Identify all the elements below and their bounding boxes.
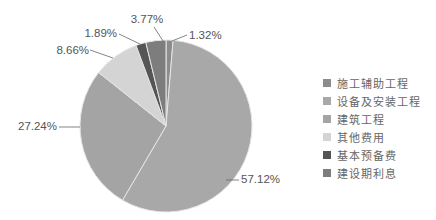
legend-label: 施工辅助工程 [337, 75, 409, 91]
leader-line [119, 34, 140, 44]
legend-item-equipment-install: 设备及安装工程 [323, 92, 421, 110]
legend-swatch-icon [323, 79, 331, 87]
leader-line [90, 50, 113, 58]
percentage-label: 1.89% [84, 27, 117, 39]
leader-line [172, 35, 187, 41]
legend-swatch-icon [323, 115, 331, 123]
legend: 施工辅助工程 设备及安装工程 建筑工程 其他费用 基本预备费 建设期利息 [323, 74, 421, 182]
legend-item-basic-reserve: 基本预备费 [323, 146, 421, 164]
legend-item-other-costs: 其他费用 [323, 128, 421, 146]
legend-swatch-icon [323, 133, 331, 141]
legend-swatch-icon [323, 151, 331, 159]
legend-swatch-icon [323, 97, 331, 105]
legend-item-building: 建筑工程 [323, 110, 421, 128]
percentage-label: 1.32% [189, 29, 222, 41]
legend-item-construction-interest: 建设期利息 [323, 164, 421, 182]
legend-swatch-icon [323, 169, 331, 177]
legend-label: 其他费用 [337, 129, 385, 145]
legend-item-construction-aux: 施工辅助工程 [323, 74, 421, 92]
legend-label: 设备及安装工程 [337, 93, 421, 109]
legend-label: 建筑工程 [337, 111, 385, 127]
percentage-label: 8.66% [56, 44, 89, 56]
leader-line [154, 27, 163, 41]
legend-label: 建设期利息 [337, 165, 397, 181]
legend-label: 基本预备费 [337, 147, 397, 163]
percentage-label: 57.12% [241, 173, 280, 185]
pie-slices [80, 40, 252, 212]
percentage-label: 3.77% [131, 13, 164, 25]
percentage-label: 27.24% [18, 120, 57, 132]
